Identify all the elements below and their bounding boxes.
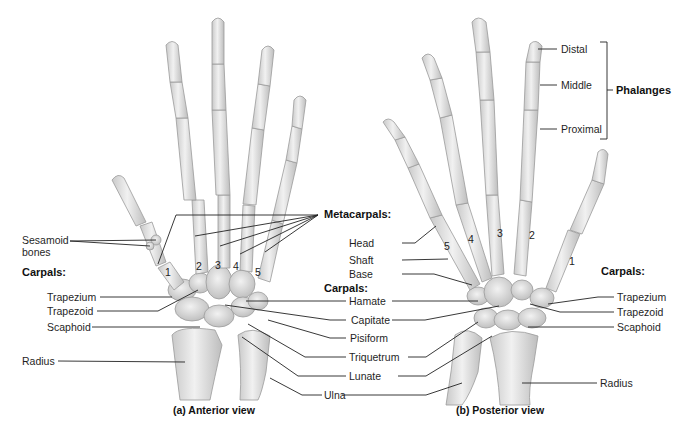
label-trapezium-posterior: Trapezium [617,291,666,303]
label-trapezium-anterior: Trapezium [47,291,96,303]
label-metacarpal-shaft: Shaft [349,254,374,266]
metacarpal-number-5-anterior: 5 [255,266,261,278]
caption-posterior-view: (b) Posterior view [456,404,544,416]
label-sesamoid-line1: Sesamoid [22,234,69,246]
heading-phalanges: Phalanges [616,84,671,96]
heading-carpals-anterior: Carpals: [22,266,66,278]
label-pisiform: Pisiform [350,332,388,344]
metacarpal-number-1-posterior: 1 [569,255,575,267]
label-capitate: Capitate [351,314,390,326]
anterior-hand [112,18,306,400]
label-triquetrum: Triquetrum [349,351,399,363]
label-sesamoid-line2: bones [22,246,69,258]
label-metacarpal-base: Base [349,268,373,280]
label-trapezoid-anterior: Trapezoid [47,305,93,317]
label-middle-phalanx: Middle [561,79,592,91]
metacarpal-number-3-anterior: 3 [215,259,221,271]
label-metacarpal-head: Head [349,237,374,249]
label-hamate: Hamate [349,295,386,307]
label-proximal-phalanx: Proximal [561,123,602,135]
metacarpal-number-2-anterior: 2 [196,260,202,272]
metacarpal-number-5-posterior: 5 [444,240,450,252]
label-scaphoid-anterior: Scaphoid [47,321,91,333]
label-scaphoid-posterior: Scaphoid [617,321,661,333]
label-lunate: Lunate [349,370,381,382]
metacarpal-number-1-anterior: 1 [165,266,171,278]
label-radius-posterior: Radius [600,377,633,389]
metacarpal-number-3-posterior: 3 [497,227,503,239]
label-ulna: Ulna [324,389,346,401]
label-radius-anterior: Radius [22,355,55,367]
heading-carpals-posterior: Carpals: [601,265,645,277]
metacarpal-number-4-posterior: 4 [468,233,474,245]
metacarpal-number-4-anterior: 4 [233,260,239,272]
label-trapezoid-posterior: Trapezoid [617,306,663,318]
heading-metacarpals: Metacarpals: [324,208,391,220]
heading-carpals-center: Carpals: [324,282,368,294]
metacarpal-number-2-posterior: 2 [529,229,535,241]
label-distal-phalanx: Distal [561,43,587,55]
hand-bones-figure: Sesamoid bones Carpals: Trapezium Trapez… [0,0,686,435]
label-sesamoid-bones: Sesamoid bones [22,234,69,258]
posterior-hand [383,18,608,405]
caption-anterior-view: (a) Anterior view [173,404,255,416]
